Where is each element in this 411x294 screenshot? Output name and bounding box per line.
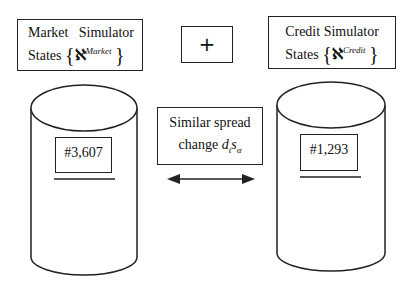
open-brace: {	[65, 44, 75, 66]
credit-superscript: Credit	[343, 45, 366, 55]
market-cylinder-top	[31, 85, 137, 131]
market-simulator-box: Market Simulator States {ℵMarket }	[17, 19, 143, 71]
market-label: Market	[28, 24, 68, 42]
credit-cylinder-top	[277, 82, 385, 128]
similar-spread-box: Similar spread change dtsα	[157, 107, 263, 165]
credit-count-box: #1,293	[300, 134, 358, 171]
open-brace: {	[322, 43, 332, 65]
plus-box: +	[181, 26, 233, 63]
plus-icon: +	[199, 32, 216, 56]
change-label: change	[179, 137, 219, 152]
aleph-symbol: ℵ	[75, 47, 86, 63]
market-cylinder-body	[31, 108, 137, 275]
similar-spread-label: Similar spread	[158, 114, 262, 132]
market-count-box: #3,607	[55, 137, 112, 173]
credit-count: #1,293	[310, 142, 349, 157]
s-subscript: α	[237, 145, 242, 155]
states-label: States	[28, 48, 61, 63]
close-brace: }	[369, 43, 379, 65]
market-superscript: Market	[86, 46, 112, 56]
market-database-cylinder	[31, 85, 137, 275]
credit-database-cylinder	[277, 82, 385, 271]
simulator-label: Simulator	[79, 24, 134, 42]
credit-simulator-box: Credit Simulator States {ℵCredit }	[268, 16, 396, 69]
aleph-symbol: ℵ	[332, 46, 343, 62]
double-arrow-icon	[167, 174, 255, 184]
d-symbol: d	[222, 137, 229, 152]
states-label: States	[285, 47, 318, 62]
market-count: #3,607	[64, 145, 103, 160]
credit-cylinder-body	[277, 105, 385, 271]
credit-simulator-label: Credit Simulator	[269, 23, 395, 41]
close-brace: }	[115, 44, 125, 66]
